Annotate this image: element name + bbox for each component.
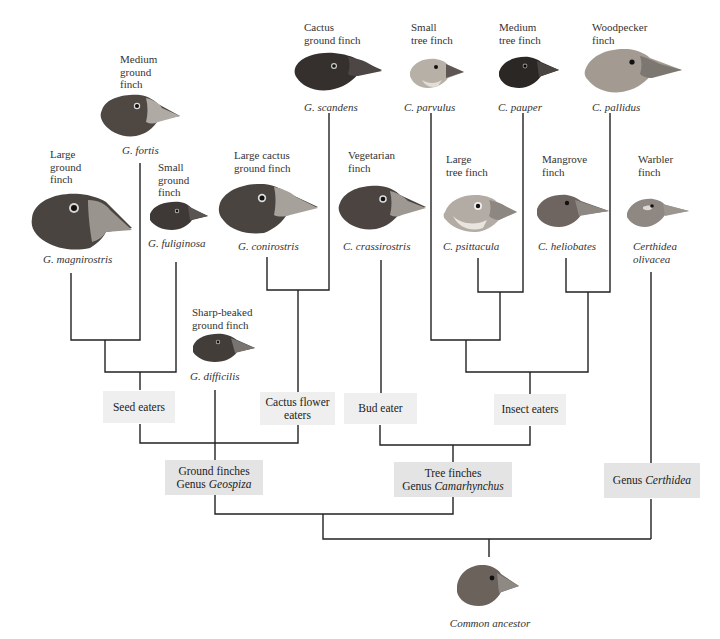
scientific-name-difficilis: G. difficilis (190, 370, 240, 383)
small-tree-finch-head-icon (408, 56, 466, 92)
diet-group-seed-eaters: Seed eaters (103, 391, 175, 423)
common-name-small-ground-finch: Small ground finch (158, 161, 189, 199)
common-name-mangrove-finch: Mangrove finch (542, 153, 587, 178)
vegetarian-finch-head-icon (338, 183, 428, 233)
common-ancestor-head-icon (455, 562, 521, 608)
scientific-name-parvulus: C. parvulus (404, 101, 455, 114)
genus-geospiza-common: Ground finches (178, 465, 249, 478)
scientific-name-olivacea: Certhidea olivacea (633, 240, 677, 265)
mangrove-finch-head-icon (535, 193, 611, 231)
genus-camarhynchus-common: Tree finches (425, 467, 482, 480)
medium-ground-finch-head-icon (100, 92, 182, 140)
common-name-large-ground-finch: Large ground finch (50, 148, 81, 186)
diet-group-bud-eater: Bud eater (344, 393, 417, 424)
diet-group-cactus-flower-eaters: Cactus flower eaters (260, 392, 335, 425)
scientific-name-crassirostris: C. crassirostris (343, 240, 410, 253)
cactus-ground-finch-head-icon (294, 50, 384, 92)
scientific-name-heliobates: C. heliobates (538, 240, 596, 253)
woodpecker-finch-head-icon (584, 46, 684, 94)
scientific-name-pallidus: C. pallidus (592, 101, 640, 114)
sharp-beaked-ground-finch-head-icon (191, 332, 257, 366)
common-name-small-tree-finch: Small tree finch (411, 21, 453, 46)
finch-phylogeny-diagram: Large ground finch G. magnirostris Mediu… (0, 0, 720, 639)
common-name-medium-ground-finch: Medium ground finch (120, 53, 157, 91)
common-name-woodpecker-finch: Woodpecker finch (592, 21, 647, 46)
large-cactus-ground-finch-head-icon (218, 181, 320, 236)
medium-tree-finch-head-icon (497, 54, 561, 92)
genus-certhidea-label: Genus Certhidea (613, 474, 691, 487)
scientific-name-fortis: G. fortis (122, 144, 159, 157)
common-name-medium-tree-finch: Medium tree finch (499, 21, 541, 46)
common-ancestor-label: Common ancestor (440, 617, 540, 630)
scientific-name-scandens: G. scandens (304, 101, 358, 114)
common-name-sharp-beaked-ground-finch: Sharp-beaked ground finch (192, 306, 252, 331)
common-name-warbler-finch: Warbler finch (638, 153, 673, 178)
scientific-name-fuliginosa: G. fuliginosa (148, 237, 205, 250)
common-name-large-tree-finch: Large tree finch (446, 153, 488, 178)
genus-camarhynchus-label: Genus Camarhynchus (402, 480, 504, 493)
common-name-cactus-ground-finch: Cactus ground finch (304, 21, 361, 46)
small-ground-finch-head-icon (148, 200, 210, 234)
scientific-name-pauper: C. pauper (498, 101, 542, 114)
scientific-name-conirostris: G. conirostris (238, 240, 299, 253)
scientific-name-psittacula: C. psittacula (443, 240, 499, 253)
large-tree-finch-head-icon (443, 192, 519, 236)
scientific-name-magnirostris: G. magnirostris (43, 253, 112, 266)
warbler-finch-head-icon (625, 197, 691, 231)
common-name-large-cactus-ground-finch: Large cactus ground finch (234, 149, 291, 174)
genus-geospiza-box: Ground finches Genus Geospiza (165, 460, 263, 495)
genus-camarhynchus-box: Tree finches Genus Camarhynchus (394, 462, 512, 497)
genus-certhidea-box: Genus Certhidea (604, 463, 700, 498)
genus-geospiza-label: Genus Geospiza (176, 478, 251, 491)
diet-group-insect-eaters: Insect eaters (494, 394, 566, 425)
large-ground-finch-head-icon (28, 190, 136, 252)
common-name-vegetarian-finch: Vegetarian finch (348, 149, 395, 174)
